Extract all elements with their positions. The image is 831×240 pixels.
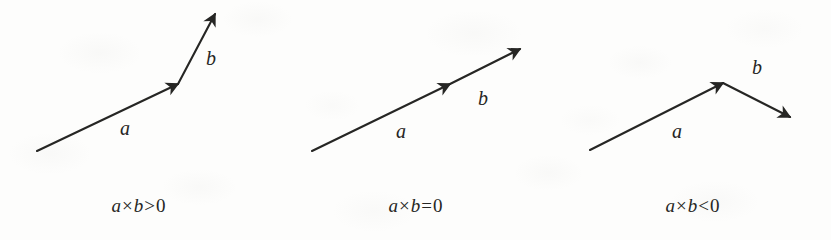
caption-relation: > [143,195,156,216]
caption-value: 0 [156,195,166,216]
vector-a-label: a [396,121,406,141]
cross-product-sign-figure: a b a×b>0 a b a×b=0 [0,0,831,240]
caption-value: 0 [710,195,720,216]
vector-diagram-positive [0,0,277,185]
vector-b-label: b [752,57,762,77]
caption-operator: × [675,195,688,216]
caption-right-symbol: b [688,195,698,216]
caption-positive: a×b>0 [0,196,277,215]
caption-operator: × [398,195,411,216]
vector-a-arrow [37,84,178,151]
vector-b-label: b [206,48,216,68]
caption-relation: = [420,195,433,216]
vector-diagram-negative [554,0,831,185]
vector-b-label: b [478,88,488,108]
caption-negative: a×b<0 [554,196,831,215]
panel-zero: a b a×b=0 [277,0,554,240]
caption-operator: × [121,195,134,216]
vector-a-arrow [590,83,723,150]
vector-a-label: a [120,118,130,138]
caption-left-symbol: a [389,195,399,216]
caption-value: 0 [433,195,443,216]
caption-zero: a×b=0 [277,196,554,215]
caption-right-symbol: b [134,195,144,216]
panel-negative: a b a×b<0 [554,0,831,240]
vector-diagram-zero [277,0,554,185]
vector-a-arrow [312,84,450,151]
caption-left-symbol: a [666,195,676,216]
panel-positive: a b a×b>0 [0,0,277,240]
caption-right-symbol: b [411,195,421,216]
vector-b-arrow [450,49,520,84]
caption-relation: < [697,195,710,216]
vector-b-arrow [723,83,790,117]
vector-a-label: a [672,121,682,141]
caption-left-symbol: a [112,195,122,216]
